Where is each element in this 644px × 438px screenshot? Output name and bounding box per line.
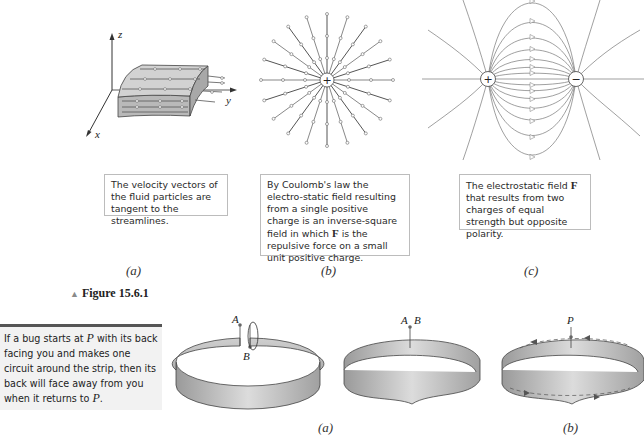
point-label-P: P (567, 314, 574, 326)
point-label-A-mobius: A (401, 314, 408, 326)
cut-band-and-mobius-strip-icon (0, 0, 644, 438)
sublabel-bottom-a: (a) (318, 420, 333, 436)
sublabel-bottom-b: (b) (563, 420, 578, 436)
point-label-B-band: B (243, 350, 250, 362)
point-label-B-mobius: B (414, 314, 421, 326)
point-label-A-band: A (232, 313, 239, 325)
